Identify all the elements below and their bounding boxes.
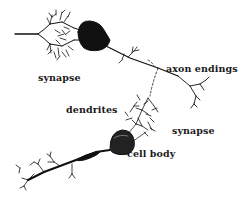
label-synapse-bottom: synapse — [172, 125, 215, 136]
upper-cell-body — [78, 21, 110, 51]
neuron-diagram — [0, 0, 245, 201]
label-cell-body: cell body — [127, 148, 175, 159]
label-synapse-top: synapse — [38, 72, 81, 83]
label-dendrites: dendrites — [66, 104, 118, 115]
label-axon-endings: axon endings — [166, 63, 238, 74]
